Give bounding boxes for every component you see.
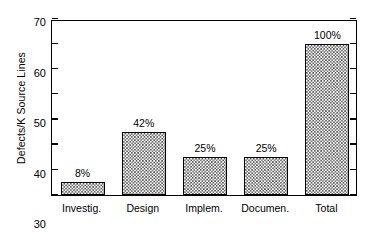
- y-tick-label: 70: [34, 17, 46, 18]
- y-tick-mark-left: 70: [52, 18, 58, 19]
- bar-implem: [183, 157, 227, 195]
- y-axis-title: Defects/K Source Lines: [14, 20, 28, 196]
- bar-total: [305, 44, 349, 195]
- bar-documen: [244, 157, 288, 195]
- bar-series: 8%42%25%25%100%: [52, 21, 356, 195]
- bar-slot: 25%: [174, 21, 235, 195]
- bar-data-label: 25%: [194, 143, 215, 154]
- x-tick-label: Documen.: [235, 203, 296, 214]
- bar-data-label: 8%: [75, 168, 90, 179]
- x-tick-label: Total: [296, 203, 357, 214]
- x-tick-label: Design: [112, 203, 173, 214]
- bar-investig: [61, 182, 105, 195]
- x-tick-label: Implem.: [173, 203, 234, 214]
- bar-slot: 42%: [113, 21, 174, 195]
- y-tick-mark-right: [350, 18, 356, 19]
- bar-data-label: 42%: [133, 118, 154, 129]
- bar-data-label: 100%: [314, 30, 341, 41]
- x-tick-label: Investig.: [51, 203, 112, 214]
- bar-data-label: 25%: [256, 143, 277, 154]
- bar-design: [122, 132, 166, 195]
- bar-chart-figure: Defects/K Source Lines 010203040506070 8…: [0, 0, 372, 232]
- bar-slot: 25%: [236, 21, 297, 195]
- bar-slot: 8%: [52, 21, 113, 195]
- plot-area: 010203040506070 8%42%25%25%100%: [51, 20, 357, 196]
- bar-slot: 100%: [297, 21, 358, 195]
